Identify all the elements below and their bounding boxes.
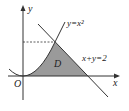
line-label: x+y=2 xyxy=(81,53,107,63)
parabola-label: y=x² xyxy=(66,18,84,28)
region-label: D xyxy=(53,58,62,69)
diagram-canvas: y x O y=x² x+y=2 D xyxy=(0,0,129,111)
y-axis-arrow-icon xyxy=(21,5,26,11)
y-axis-label: y xyxy=(27,3,33,14)
origin-label: O xyxy=(14,78,21,89)
x-axis-label: x xyxy=(112,77,118,88)
